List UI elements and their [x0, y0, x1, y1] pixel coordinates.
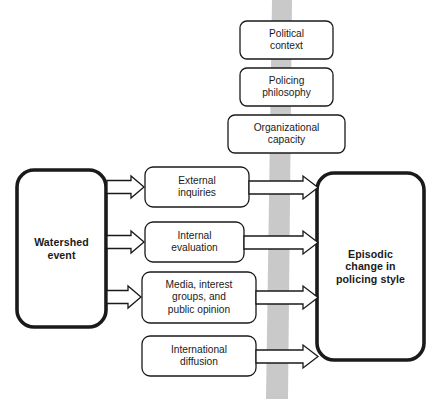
edge-watershed-to-internal — [107, 231, 144, 253]
node-organizational-capacity — [228, 115, 345, 153]
flow-diagram: Political context Policing philosophy Or… — [0, 0, 443, 399]
node-policing-philosophy — [240, 68, 333, 106]
node-political-context — [240, 21, 333, 59]
edge-watershed-to-media — [107, 286, 141, 308]
node-international-diffusion — [142, 336, 256, 376]
node-media-interest-groups — [142, 272, 256, 323]
node-episodic-change — [317, 173, 424, 360]
node-watershed-event — [17, 170, 106, 327]
edge-watershed-to-external — [107, 176, 144, 198]
node-external-inquiries — [145, 167, 249, 207]
vertical-context-band — [266, 0, 292, 399]
diagram-canvas — [0, 0, 443, 399]
node-internal-evaluation — [145, 222, 244, 262]
